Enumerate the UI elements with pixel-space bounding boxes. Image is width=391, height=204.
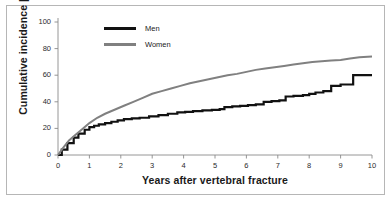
x-tick-label-0: 0 xyxy=(47,161,69,170)
x-tick-label-7: 7 xyxy=(267,161,289,170)
x-tick-label-1: 1 xyxy=(78,161,100,170)
legend-swatch-men-icon xyxy=(104,27,136,30)
x-tick-label-6: 6 xyxy=(235,161,257,170)
chart-legend: MenWomen xyxy=(104,22,171,54)
x-axis-title: Years after vertebral fracture xyxy=(58,174,372,186)
y-tick-label-0: 0 xyxy=(25,150,51,159)
y-axis-title: Cumulative incidence [%] xyxy=(17,0,29,125)
x-tick-label-4: 4 xyxy=(173,161,195,170)
legend-item-women: Women xyxy=(104,38,171,51)
legend-label: Women xyxy=(145,40,171,49)
x-tick-label-2: 2 xyxy=(110,161,132,170)
legend-swatch-women-icon xyxy=(104,43,136,46)
series-lines xyxy=(58,57,372,155)
x-tick-label-10: 10 xyxy=(361,161,383,170)
series-line-men xyxy=(58,75,372,155)
axis-lines xyxy=(55,18,373,159)
x-tick-label-9: 9 xyxy=(330,161,352,170)
legend-item-men: Men xyxy=(104,22,171,35)
series-line-women xyxy=(58,57,372,155)
x-tick-label-5: 5 xyxy=(204,161,226,170)
figure-container: 020406080100 012345678910 Cumulative inc… xyxy=(0,0,391,204)
x-tick-label-8: 8 xyxy=(298,161,320,170)
x-tick-label-3: 3 xyxy=(141,161,163,170)
legend-label: Men xyxy=(145,24,160,33)
